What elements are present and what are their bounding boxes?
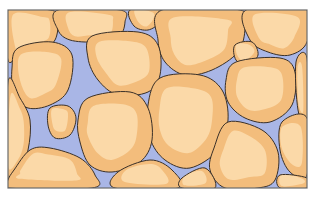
rock-grain-diagram [0,0,325,199]
grain-illustration [0,0,325,199]
grain [47,105,76,139]
grain-core [236,66,283,111]
grains-group [2,6,313,190]
grain [77,92,152,173]
